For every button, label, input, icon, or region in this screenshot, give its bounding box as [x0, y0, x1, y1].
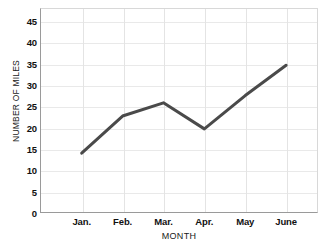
gridline-vertical [205, 9, 206, 212]
x-axis-title: MONTH [40, 231, 318, 241]
y-axis-tick-label: 30 [7, 79, 37, 90]
gridline-vertical [164, 9, 165, 212]
y-axis-tick-label: 15 [7, 143, 37, 154]
plot-area [40, 8, 318, 213]
y-axis-tick-label: 10 [7, 165, 37, 176]
gridline-vertical [246, 9, 247, 212]
y-axis-tick-label: 25 [7, 101, 37, 112]
y-axis-tick-label: 45 [7, 15, 37, 26]
gridline-vertical [83, 9, 84, 212]
line-chart: NUMBER OF MILES 051015202530354045 Jan.F… [0, 0, 332, 247]
gridline-vertical [124, 9, 125, 212]
y-axis-tick-label: 20 [7, 122, 37, 133]
y-axis-tick-label: 0 [7, 208, 37, 219]
gridline-vertical [287, 9, 288, 212]
y-axis-tick-label: 5 [7, 186, 37, 197]
y-axis-tick-label: 35 [7, 58, 37, 69]
y-axis-tick-label: 40 [7, 37, 37, 48]
gridlines [41, 9, 317, 212]
x-axis-tick-label: June [259, 216, 313, 227]
